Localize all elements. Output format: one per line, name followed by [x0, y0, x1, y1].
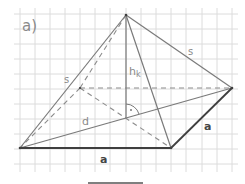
- label-height-subscript: k: [136, 70, 141, 79]
- label-height: hk: [129, 65, 141, 79]
- edge-apex-frontright: [126, 15, 171, 148]
- edge-apex-backright: [126, 15, 232, 88]
- hidden-edge-apex-backleft: [80, 15, 126, 88]
- right-angle-dot: [130, 109, 132, 111]
- label-height-main: h: [129, 65, 136, 78]
- label-base-right: a: [204, 120, 211, 133]
- right-angle-arc: [126, 104, 139, 114]
- label-diagonal: d: [82, 115, 89, 128]
- label-slant-right: s: [188, 46, 193, 57]
- pyramid-diagram: a) s s hk d a a: [0, 0, 245, 184]
- label-base-front: a: [100, 153, 107, 166]
- part-label: a): [22, 17, 37, 35]
- label-slant-left: s: [64, 74, 69, 85]
